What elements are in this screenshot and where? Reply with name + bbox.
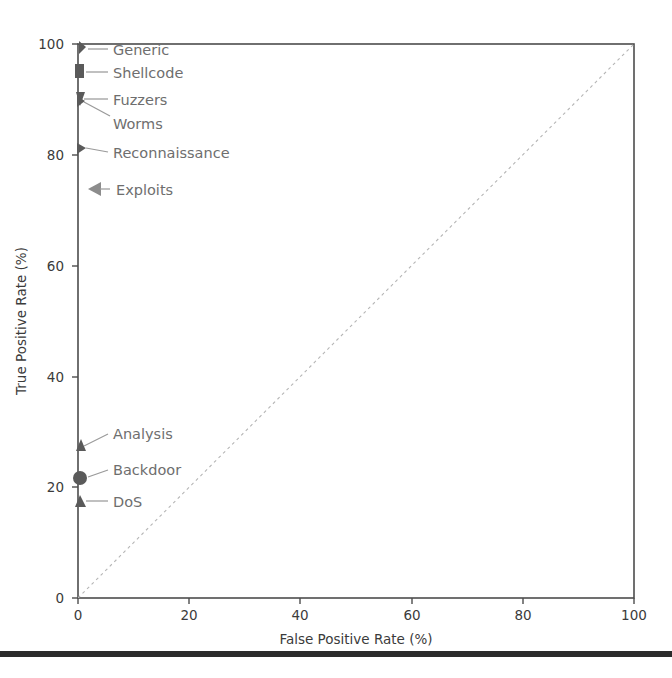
shellcode-marker [75,64,84,78]
data-point-dos: DoS [75,494,142,510]
point-label-backdoor: Backdoor [113,462,181,478]
y-tick-label-0: 0 [55,590,64,606]
point-label-dos: DoS [113,494,142,510]
point-label-reconnaissance: Reconnaissance [113,145,230,161]
data-point-shellcode: Shellcode [75,64,183,81]
y-tick-label-60: 60 [47,258,64,274]
roc-scatter-plot: 0 20 40 60 80 100 0 20 40 60 80 100 Fals… [0,0,672,678]
data-point-analysis: Analysis [76,426,173,451]
x-tick-label-20: 20 [180,607,197,623]
x-axis-title: False Positive Rate (%) [279,631,432,647]
analysis-leader-line [84,434,108,446]
point-label-fuzzers: Fuzzers [113,92,167,108]
bottom-divider-rule [0,651,672,657]
y-tick-label-40: 40 [47,369,64,385]
reconnaissance-marker [77,143,86,154]
worms-leader-line [84,102,110,116]
point-label-analysis: Analysis [113,426,173,442]
data-point-reconnaissance: Reconnaissance [77,143,230,161]
dos-marker [75,495,86,507]
roc-figure: 0 20 40 60 80 100 0 20 40 60 80 100 Fals… [0,0,672,678]
y-tick-label-100: 100 [38,36,64,52]
exploits-leader-arrow [88,182,101,196]
y-tick-label-20: 20 [47,479,64,495]
point-label-shellcode: Shellcode [113,65,183,81]
y-axis-ticks [72,44,78,598]
x-tick-label-0: 0 [74,607,83,623]
data-point-backdoor: Backdoor [73,462,181,485]
x-axis-tick-labels: 0 20 40 60 80 100 [74,607,647,623]
backdoor-marker [73,471,87,485]
x-tick-label-40: 40 [291,607,308,623]
reconnaissance-leader-line [86,148,108,152]
x-tick-label-80: 80 [514,607,531,623]
generic-marker [79,41,86,54]
point-label-worms: Worms [113,116,163,132]
y-axis-tick-labels: 0 20 40 60 80 100 [38,36,64,606]
y-tick-label-80: 80 [47,147,64,163]
x-tick-label-60: 60 [403,607,420,623]
x-axis-ticks [78,598,634,604]
x-tick-label-100: 100 [621,607,647,623]
backdoor-leader-line [88,470,108,477]
data-point-exploits: Exploits [88,182,173,198]
point-label-generic: Generic [113,42,169,58]
y-axis-title: True Positive Rate (%) [13,247,29,396]
point-label-exploits: Exploits [116,182,173,198]
